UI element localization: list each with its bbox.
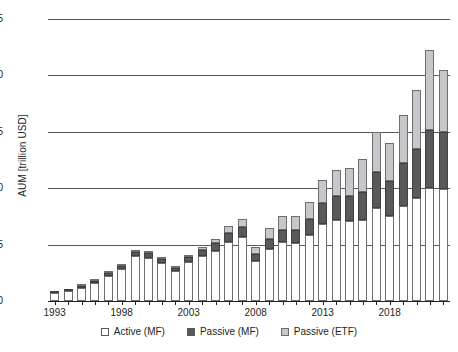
bar[interactable] — [251, 247, 260, 301]
x-axis-tick-label: 1998 — [97, 307, 147, 319]
bar[interactable] — [144, 251, 153, 301]
bar-segment-active-mf — [144, 258, 153, 301]
y-axis-tick-label: 0 — [0, 296, 3, 306]
bar[interactable] — [358, 159, 367, 301]
bar-segment-active-mf — [171, 271, 180, 301]
bar[interactable] — [77, 284, 86, 301]
bar[interactable] — [238, 219, 247, 301]
bar-segment-active-mf — [278, 242, 287, 301]
bar[interactable] — [385, 143, 394, 301]
x-axis-tick — [108, 301, 109, 305]
x-axis-tick — [68, 301, 69, 305]
bar-segment-passive-mf — [238, 227, 247, 237]
x-axis-tick-label: 2018 — [365, 307, 415, 319]
bar[interactable] — [117, 264, 126, 301]
bar[interactable] — [265, 228, 274, 301]
x-axis-tick — [202, 301, 203, 305]
y-axis-tick-label: 10 — [0, 183, 3, 193]
bar[interactable] — [412, 90, 421, 301]
bar[interactable] — [198, 247, 207, 301]
bar-segment-active-mf — [211, 251, 220, 301]
bar-segment-active-mf — [385, 216, 394, 301]
x-axis-tick — [242, 301, 243, 305]
x-axis-tick — [336, 301, 337, 305]
x-axis-tick — [430, 301, 431, 305]
bar-segment-active-mf — [358, 220, 367, 301]
bar-segment-active-mf — [90, 283, 99, 301]
bar-segment-active-mf — [372, 208, 381, 301]
bar-segment-active-mf — [157, 263, 166, 301]
bar-segment-passive-etf — [305, 202, 314, 219]
x-axis-tick — [149, 301, 150, 305]
aum-stacked-bar-chart: AUM [trillion USD] 0510152025 1993199820… — [0, 0, 458, 352]
x-axis-tick — [122, 301, 123, 305]
bar-segment-passive-mf — [291, 230, 300, 243]
bar-segment-active-mf — [238, 237, 247, 301]
bar[interactable] — [399, 115, 408, 301]
x-axis-tick — [309, 301, 310, 305]
bar-segment-active-mf — [332, 220, 341, 301]
x-axis-tick — [256, 301, 257, 305]
bar[interactable] — [425, 50, 434, 301]
bar[interactable] — [318, 180, 327, 301]
bar[interactable] — [171, 266, 180, 301]
bar-segment-active-mf — [318, 224, 327, 301]
bar-segment-active-mf — [224, 242, 233, 301]
legend-item[interactable]: Active (MF) — [101, 326, 165, 337]
bar[interactable] — [104, 271, 113, 301]
x-axis-tick — [162, 301, 163, 305]
x-axis-tick — [350, 301, 351, 305]
bar-segment-passive-etf — [385, 143, 394, 181]
x-axis-tick — [363, 301, 364, 305]
bar[interactable] — [372, 132, 381, 301]
bar[interactable] — [305, 202, 314, 301]
bar[interactable] — [278, 216, 287, 301]
bar[interactable] — [211, 239, 220, 301]
x-axis-tick — [189, 301, 190, 305]
bar-segment-passive-mf — [332, 196, 341, 220]
bar-segment-active-mf — [399, 206, 408, 301]
x-axis-tick — [229, 301, 230, 305]
bar-segment-passive-mf — [251, 254, 260, 261]
bar-segment-passive-mf — [278, 230, 287, 242]
legend-label: Passive (MF) — [200, 326, 259, 337]
bar-segment-passive-etf — [425, 50, 434, 130]
bar[interactable] — [50, 291, 59, 301]
bar-segment-active-mf — [425, 188, 434, 301]
bar-segment-passive-mf — [305, 219, 314, 235]
bar-segment-passive-mf — [211, 243, 220, 250]
bar-segment-passive-mf — [318, 203, 327, 224]
bar[interactable] — [291, 216, 300, 301]
x-axis-tick — [417, 301, 418, 305]
bar[interactable] — [157, 257, 166, 301]
legend-item[interactable]: Passive (ETF) — [281, 326, 357, 337]
x-axis-tick-label: 2008 — [231, 307, 281, 319]
bar-segment-active-mf — [251, 261, 260, 301]
x-axis-tick — [296, 301, 297, 305]
bar-segment-passive-etf — [265, 228, 274, 239]
bar[interactable] — [184, 255, 193, 301]
y-axis-tick-label: 20 — [0, 70, 3, 80]
bar[interactable] — [345, 168, 354, 301]
bar-segment-active-mf — [50, 293, 59, 301]
bar-segment-active-mf — [64, 291, 73, 301]
bar[interactable] — [224, 226, 233, 301]
bar-segment-passive-mf — [399, 163, 408, 205]
bar-segment-active-mf — [117, 269, 126, 301]
legend-item[interactable]: Passive (MF) — [187, 326, 259, 337]
y-axis-tick-label: 15 — [0, 127, 3, 137]
bar[interactable] — [90, 279, 99, 301]
bar[interactable] — [332, 170, 341, 301]
bar-segment-active-mf — [131, 256, 140, 301]
x-axis-tick — [323, 301, 324, 305]
bar-segment-passive-mf — [425, 130, 434, 188]
x-axis-tick — [55, 301, 56, 305]
bar[interactable] — [131, 250, 140, 301]
bar-segment-active-mf — [184, 262, 193, 301]
x-axis-tick-labels: 199319982003200820132018 — [0, 307, 458, 323]
bar[interactable] — [439, 70, 448, 301]
bar-segment-passive-etf — [318, 180, 327, 203]
bar-segment-active-mf — [439, 189, 448, 301]
bar[interactable] — [64, 289, 73, 301]
bar-segment-passive-mf — [265, 239, 274, 249]
